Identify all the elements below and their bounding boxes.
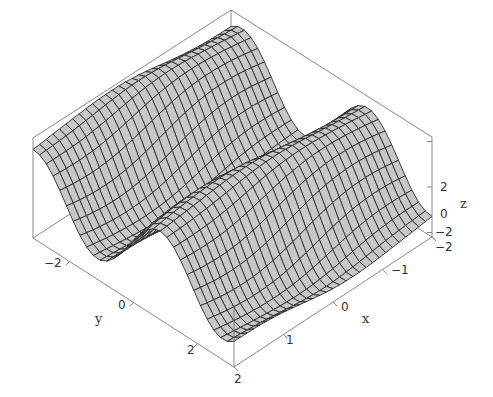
y-tick-neg2: −2	[44, 257, 62, 269]
x-tick-neg1: −1	[391, 264, 409, 276]
x-tick-1: 1	[286, 334, 294, 346]
x-tick-neg2: −2	[435, 241, 453, 253]
surface-plot	[0, 0, 493, 397]
z-tick-0: 0	[440, 208, 448, 220]
surface-mesh	[33, 26, 432, 341]
y-tick-2: 2	[187, 344, 195, 356]
y-tick-0: 0	[118, 299, 126, 311]
z-axis-label: z	[460, 197, 467, 210]
x-tick-0: 0	[341, 301, 349, 313]
x-axis-label: x	[362, 312, 369, 325]
x-tick-2: 2	[234, 373, 242, 385]
z-tick-neg2: −2	[435, 226, 453, 238]
z-tick-2: 2	[440, 181, 448, 193]
y-axis-label: y	[95, 312, 102, 325]
